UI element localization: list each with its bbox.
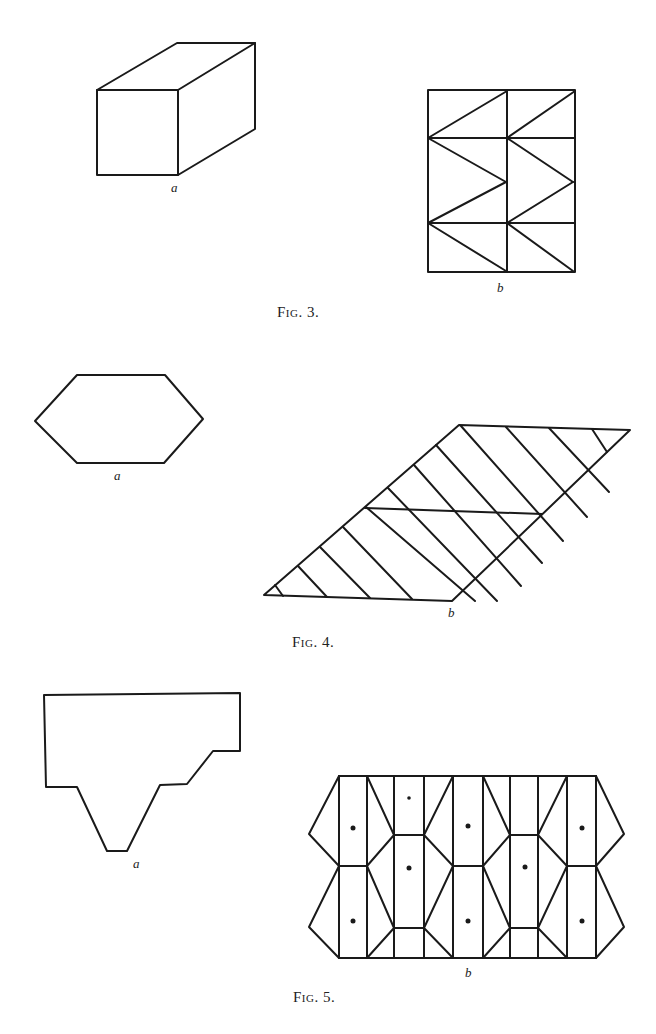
fig3-caption: Fig. 3. <box>277 304 319 321</box>
fig5-caption: Fig. 5. <box>293 989 335 1006</box>
fig3b-net-drawing <box>428 90 575 272</box>
fig4b-label: b <box>448 605 455 621</box>
fig4a-hexagon-drawing <box>35 375 203 463</box>
fig3a-label: a <box>171 180 178 196</box>
fig4a-label: a <box>114 468 121 484</box>
fig5a-polygon-drawing <box>44 693 240 851</box>
figure-canvas <box>0 0 656 1034</box>
fig3a-box-drawing <box>97 43 255 175</box>
fig3b-label: b <box>497 280 504 296</box>
fig4-caption: Fig. 4. <box>292 634 334 651</box>
fig5b-tessellation-drawing <box>309 776 624 958</box>
fig4b-parallelogram-drawing <box>264 425 630 601</box>
fig5b-label: b <box>465 965 472 981</box>
fig5a-label: a <box>133 856 140 872</box>
